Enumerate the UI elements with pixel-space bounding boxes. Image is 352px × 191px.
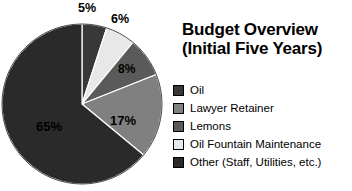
legend-item[interactable]: Other (Staff, Utilities, etc.): [173, 153, 352, 171]
legend-color-swatch: [173, 157, 184, 168]
pie-slice-percent-label: 6%: [111, 13, 129, 26]
legend-item[interactable]: Oil: [173, 81, 352, 99]
legend-color-swatch: [173, 103, 184, 114]
legend-color-swatch: [173, 85, 184, 96]
chart-info-panel: Budget Overview (Initial Five Years) Oil…: [169, 0, 352, 191]
legend-item[interactable]: Oil Fountain Maintenance: [173, 135, 352, 153]
legend-color-swatch: [173, 139, 184, 150]
legend-item-label: Oil: [190, 84, 204, 96]
pie-slice-percent-label: 5%: [78, 2, 96, 15]
chart-title: Budget Overview (Initial Five Years): [182, 20, 352, 58]
legend-item[interactable]: Lawyer Retainer: [173, 99, 352, 117]
legend-item[interactable]: Lemons: [173, 117, 352, 135]
pie-slice-percent-label: 17%: [110, 114, 136, 127]
legend-item-label: Lemons: [190, 120, 231, 132]
pie-slice-percent-label: 65%: [36, 120, 62, 133]
pie-chart-figure: 5%6%8%17%65% Budget Overview (Initial Fi…: [0, 0, 352, 191]
pie-svg: [0, 0, 176, 191]
pie-plot-area: 5%6%8%17%65%: [0, 0, 176, 191]
legend-item-label: Lawyer Retainer: [190, 102, 274, 114]
chart-legend: OilLawyer RetainerLemonsOil Fountain Mai…: [173, 81, 352, 171]
legend-color-swatch: [173, 121, 184, 132]
legend-item-label: Oil Fountain Maintenance: [190, 138, 321, 150]
legend-item-label: Other (Staff, Utilities, etc.): [190, 156, 321, 168]
pie-slice-percent-label: 8%: [118, 63, 135, 75]
